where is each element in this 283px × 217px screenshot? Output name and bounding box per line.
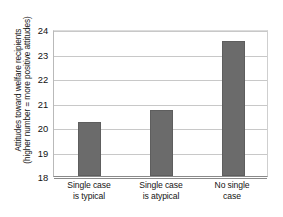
y-axis-tick-label: 19 bbox=[24, 147, 48, 158]
x-axis-category-label-line: is typical bbox=[48, 191, 130, 202]
bar bbox=[222, 41, 245, 176]
y-axis-tick-label: 18 bbox=[24, 172, 48, 183]
bar-chart: Attitudes toward welfare recipients (hig… bbox=[0, 0, 283, 217]
bar bbox=[150, 110, 173, 176]
x-axis-category-label-line: No single bbox=[191, 180, 273, 191]
x-axis-category-label-line: case bbox=[191, 191, 273, 202]
x-axis-category-label-line: is atypical bbox=[120, 191, 202, 202]
y-axis-tick-label: 21 bbox=[24, 98, 48, 109]
y-axis-tick-label: 20 bbox=[24, 123, 48, 134]
x-axis-category-labels: Single caseis typicalSingle caseis atypi… bbox=[53, 180, 268, 214]
x-axis-category-label-line: Single case bbox=[120, 180, 202, 191]
gridline bbox=[54, 178, 267, 179]
bars bbox=[54, 31, 267, 176]
y-axis-tick-label: 24 bbox=[24, 25, 48, 36]
y-axis-tick-label: 23 bbox=[24, 49, 48, 60]
y-axis-tick-labels: 18192021222324 bbox=[24, 0, 48, 217]
x-axis-category-label: Single caseis atypical bbox=[120, 180, 202, 201]
x-axis-category-label-line: Single case bbox=[48, 180, 130, 191]
plot-area bbox=[53, 30, 268, 177]
x-axis-category-label: Single caseis typical bbox=[48, 180, 130, 201]
bar bbox=[78, 122, 101, 176]
x-axis-category-label: No singlecase bbox=[191, 180, 273, 201]
y-axis-tick-label: 22 bbox=[24, 74, 48, 85]
